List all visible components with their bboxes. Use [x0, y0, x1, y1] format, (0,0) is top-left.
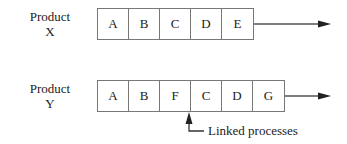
linked-processes-pointer-icon — [186, 112, 205, 131]
linked-processes-annotation: Linked processes — [208, 123, 298, 139]
product-y-arrow-icon — [285, 93, 331, 100]
product-x-arrow-icon — [254, 21, 331, 28]
